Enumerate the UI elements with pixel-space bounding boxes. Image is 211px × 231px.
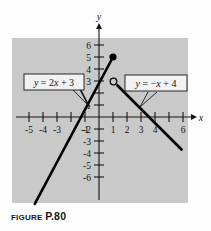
graph-plot: -5 -4 -3 -1 1 2 3 4 6 6 5 4 3 1 -2 -3 -4…	[0, 0, 211, 231]
y-tick-label--4: -4	[83, 149, 91, 159]
x-axis-label: x	[198, 112, 204, 123]
figure-caption: FIGURE P.80	[11, 210, 66, 222]
plot-background	[12, 38, 188, 203]
y-tick-label--3: -3	[83, 137, 91, 147]
y-axis-arrow	[96, 23, 102, 29]
figure-container: -5 -4 -3 -1 1 2 3 4 6 6 5 4 3 1 -2 -3 -4…	[0, 0, 211, 231]
closed-endpoint-marker	[109, 53, 116, 60]
x-axis-arrow	[191, 114, 197, 120]
right-equation-callout: y = −x + 4	[125, 75, 187, 91]
figure-caption-word: FIGURE	[11, 213, 42, 222]
y-tick-label-6: 6	[86, 41, 91, 51]
y-tick-label--2: -2	[83, 125, 91, 135]
x-tick-label--4: -4	[39, 125, 47, 135]
left-equation-callout: y = 2x + 3	[24, 74, 84, 90]
y-tick-label-4: 4	[86, 65, 91, 75]
y-tick-label-5: 5	[86, 53, 91, 63]
figure-caption-number: P.80	[45, 210, 66, 222]
y-tick-label--6: -6	[83, 173, 91, 183]
x-tick-label-2: 2	[125, 125, 130, 135]
y-tick-label--5: -5	[83, 161, 91, 171]
x-tick-label-1: 1	[111, 125, 116, 135]
left-equation-label: y = 2x + 3	[33, 77, 74, 88]
x-tick-label--5: -5	[25, 125, 33, 135]
x-tick-label--3: -3	[53, 125, 61, 135]
x-tick-label-3: 3	[139, 125, 144, 135]
y-tick-label-3: 3	[86, 77, 91, 87]
x-tick-label-6: 6	[181, 125, 186, 135]
y-axis-label: y	[96, 11, 102, 22]
open-endpoint-marker	[110, 78, 117, 85]
right-equation-label: y = −x + 4	[135, 78, 177, 89]
